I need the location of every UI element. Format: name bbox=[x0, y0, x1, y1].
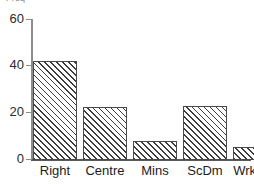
bar-centre bbox=[83, 107, 127, 160]
y-tick-label-20: 20 bbox=[0, 105, 24, 118]
x-tick-label-right: Right bbox=[33, 163, 77, 178]
plot-area bbox=[32, 19, 250, 160]
x-tick-label-scdm: ScDm bbox=[183, 163, 227, 178]
x-tick-label-centre: Centre bbox=[83, 163, 127, 178]
y-tick-label-0: 0 bbox=[0, 152, 24, 165]
y-tick-label-60: 60 bbox=[0, 12, 24, 25]
x-tick-label-mins: Mins bbox=[133, 163, 177, 178]
bar-right bbox=[33, 61, 77, 160]
bar-scdm bbox=[183, 106, 227, 160]
bar-chart: Freq 60 40 20 0 Right Centre Mins ScDm W… bbox=[0, 0, 254, 184]
x-tick-label-wrkrs: Wrkrs bbox=[228, 163, 254, 178]
y-tick-label-40: 40 bbox=[0, 58, 24, 71]
bar-wrkrs bbox=[233, 147, 254, 160]
y-axis-title: Freq bbox=[6, 0, 25, 3]
bar-mins bbox=[133, 141, 177, 160]
